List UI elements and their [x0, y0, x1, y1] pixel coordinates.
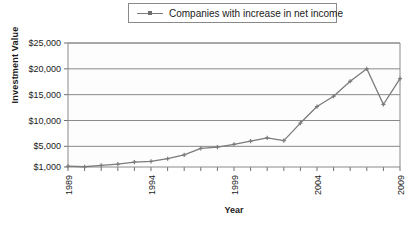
plot-background — [68, 43, 400, 167]
x-axis-tick-label: 1994 — [147, 175, 157, 195]
x-axis-ticks — [68, 167, 400, 171]
y-axis-ticks — [64, 43, 68, 167]
y-axis-tick-label: $1,000 — [33, 162, 61, 172]
x-axis-tick-label: 1989 — [64, 175, 74, 195]
x-axis-tick-label: 2009 — [396, 175, 406, 195]
x-axis-tick-label: 1999 — [230, 175, 240, 195]
y-axis-tick-label: $25,000 — [28, 38, 61, 48]
y-axis-tick-labels: $1,000$5,000$10,000$15,000$20,000$25,000 — [28, 38, 61, 172]
plot-area: $1,000$5,000$10,000$15,000$20,000$25,000… — [0, 0, 416, 226]
chart-container: Companies with increase in net income In… — [0, 0, 416, 226]
x-axis-tick-labels: 19891994199920042009 — [64, 175, 406, 195]
x-axis-tick-label: 2004 — [313, 175, 323, 195]
y-axis-tick-label: $10,000 — [28, 116, 61, 126]
y-axis-tick-label: $20,000 — [28, 64, 61, 74]
y-axis-tick-label: $5,000 — [33, 141, 61, 151]
y-axis-tick-label: $15,000 — [28, 90, 61, 100]
